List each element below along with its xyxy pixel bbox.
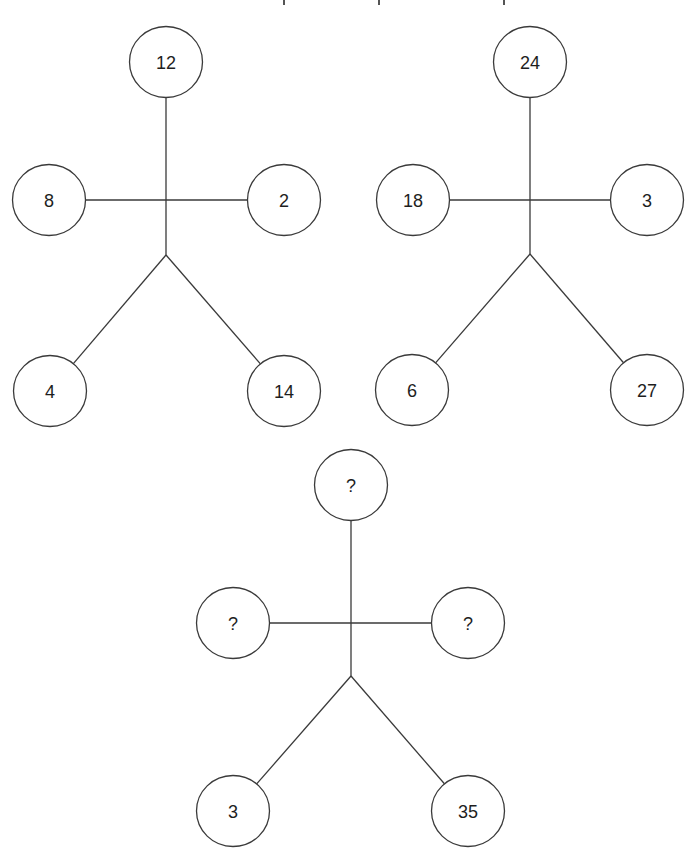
node-left-leg: 4 xyxy=(14,356,87,427)
node-left-arm: ? xyxy=(197,588,270,659)
node-label: 14 xyxy=(274,382,294,402)
node-label: 2 xyxy=(279,191,289,211)
left-leg-line xyxy=(436,254,530,363)
puzzle-canvas: 128241424183627???335 xyxy=(0,0,695,856)
node-label: ? xyxy=(228,614,238,634)
cropped-text-mark xyxy=(503,0,505,5)
node-label: 4 xyxy=(45,382,55,402)
node-right-arm: 3 xyxy=(611,165,684,236)
node-left-arm: 18 xyxy=(377,165,450,236)
node-right-arm: ? xyxy=(432,588,505,659)
left-leg-line xyxy=(73,255,166,364)
node-left-leg: 6 xyxy=(376,355,449,426)
cropped-text-marks xyxy=(283,0,505,5)
node-right-leg: 35 xyxy=(432,776,505,847)
node-label: 35 xyxy=(458,802,478,822)
node-right-leg: 14 xyxy=(248,356,321,427)
node-label: ? xyxy=(346,476,356,496)
figures-group: 128241424183627???335 xyxy=(13,27,684,847)
node-head: 12 xyxy=(130,27,203,98)
node-head: 24 xyxy=(494,27,567,98)
node-head: ? xyxy=(315,450,388,521)
node-right-leg: 27 xyxy=(611,355,684,426)
node-label: ? xyxy=(463,614,473,634)
node-label: 6 xyxy=(407,381,417,401)
right-leg-line xyxy=(530,254,624,363)
node-label: 12 xyxy=(156,53,176,73)
left-leg-line xyxy=(257,676,351,784)
node-label: 24 xyxy=(520,53,540,73)
figure-1: 1282414 xyxy=(13,27,321,427)
figure-2: 24183627 xyxy=(376,27,684,426)
node-label: 8 xyxy=(44,191,54,211)
cropped-text-mark xyxy=(283,0,285,5)
node-left-arm: 8 xyxy=(13,165,86,236)
node-label: 3 xyxy=(642,191,652,211)
figure-3: ???335 xyxy=(197,450,505,847)
node-label: 3 xyxy=(228,802,238,822)
right-leg-line xyxy=(166,255,260,364)
node-right-arm: 2 xyxy=(248,165,321,236)
cropped-text-mark xyxy=(378,0,380,5)
node-left-leg: 3 xyxy=(197,776,270,847)
right-leg-line xyxy=(351,676,444,784)
node-label: 27 xyxy=(637,381,657,401)
node-label: 18 xyxy=(403,191,423,211)
